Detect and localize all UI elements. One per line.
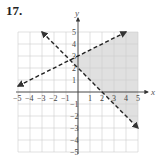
coordinate-plane: xy−5−4−3−2−11234554321−1−2−3−4−5 — [0, 0, 163, 163]
x-tick-label: 1 — [88, 94, 92, 103]
y-tick-label: −3 — [70, 124, 79, 133]
y-tick-label: 4 — [72, 40, 76, 49]
y-tick-label: −1 — [70, 100, 79, 109]
x-tick-label: 2 — [100, 94, 104, 103]
x-axis-label: x — [150, 87, 155, 97]
y-tick-label: −2 — [70, 112, 79, 121]
y-tick-label: −4 — [70, 136, 79, 145]
y-tick-label: 3 — [72, 52, 76, 61]
y-tick-label: 1 — [72, 76, 76, 85]
x-tick-label: 4 — [124, 94, 128, 103]
x-tick-label: −1 — [61, 94, 70, 103]
x-tick-label: −5 — [13, 94, 22, 103]
x-tick-label: 5 — [136, 94, 140, 103]
x-tick-label: −3 — [37, 94, 46, 103]
y-tick-label: −5 — [70, 148, 79, 157]
x-tick-label: −4 — [25, 94, 34, 103]
y-tick-label: 5 — [72, 28, 76, 37]
y-axis-label: y — [74, 8, 79, 18]
x-tick-label: −2 — [49, 94, 58, 103]
